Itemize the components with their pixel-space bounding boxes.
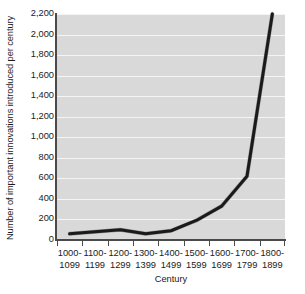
y-axis-tick-label: 800 [14,153,54,162]
x-axis-tick-label-line: 1800- [249,247,295,259]
x-axis-tick-label-line: 1899 [249,259,295,271]
y-axis-tick-label: 0 [14,235,54,244]
x-axis-tick-mark [260,241,261,246]
x-axis-tick-marks [57,241,285,246]
y-axis-tick-label: 1,000 [14,133,54,142]
innovations-per-century-line-chart: Number of important innovations introduc… [0,0,305,294]
x-axis-tick-mark [82,241,83,246]
x-axis-tick-mark [57,241,58,246]
x-axis-tick-label: 1800-1899 [249,247,295,271]
x-axis-tick-mark [209,241,210,246]
plot-area [57,14,285,240]
y-axis-tick-label: 2,000 [14,30,54,39]
x-axis-title: Century [57,274,285,284]
y-axis-tick-label: 200 [14,215,54,224]
data-line-shadow [70,14,273,234]
x-axis-tick-mark [133,241,134,246]
x-axis-tick-mark [158,241,159,246]
y-axis-tick-label: 600 [14,174,54,183]
y-axis-tick-label: 1,200 [14,112,54,121]
x-axis-tick-labels: 1000-10991100-11991200-12991300-13991400… [57,247,285,275]
data-line [70,14,273,234]
x-axis-tick-mark [184,241,185,246]
y-axis-tick-labels: 02004006008001,0001,2001,4001,6001,8002,… [14,14,54,240]
y-axis-tick-label: 400 [14,194,54,203]
y-axis-tick-label: 1,600 [14,71,54,80]
x-axis-tick-mark [234,241,235,246]
y-axis-tick-label: 1,800 [14,50,54,59]
y-axis-tick-label: 2,200 [14,9,54,18]
x-axis-tick-mark [284,241,285,246]
data-line-series [57,14,285,240]
x-axis-tick-mark [108,241,109,246]
y-axis-line [55,13,57,241]
y-axis-tick-label: 1,400 [14,92,54,101]
